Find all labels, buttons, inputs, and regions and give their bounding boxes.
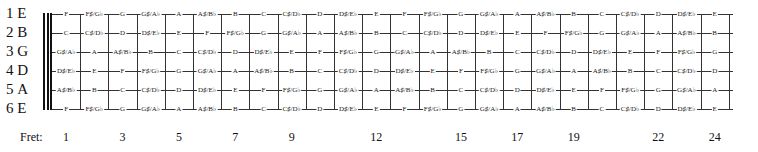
note-cell: F [120, 67, 126, 75]
note-cell: C♯/D♭ [281, 10, 301, 18]
note-cell: B [288, 67, 295, 75]
string-label-6: 6 E [6, 101, 26, 116]
note-cell: C♯/D♭ [620, 10, 640, 18]
note-cell: B [232, 105, 239, 113]
note-cell: C♯/D♭ [676, 67, 696, 75]
note-cell: G♯/A♭ [338, 86, 359, 94]
note-cell: G [316, 86, 323, 94]
note-cell: A [373, 86, 380, 94]
note-cell: B [627, 67, 634, 75]
note-cell: F [317, 48, 323, 56]
note-cell: C♯/D♭ [535, 48, 555, 56]
note-cell: G♯/A♭ [535, 67, 556, 75]
note-cell: D♯/E♭ [338, 10, 358, 18]
note-cell: E [627, 48, 633, 56]
note-cell: G♯/A♭ [140, 10, 161, 18]
note-cell: F♯/G♭ [620, 86, 640, 94]
fret-line [503, 14, 504, 109]
note-cell: D [655, 105, 662, 113]
note-cell: A [232, 67, 239, 75]
note-cell: A [175, 10, 182, 18]
note-cell: E [373, 105, 379, 113]
note-cell: D♯/E♭ [338, 105, 358, 113]
note-cell: D♯/E♭ [253, 48, 273, 56]
note-cell: F♯/G♭ [423, 105, 443, 113]
note-cell: F [63, 10, 69, 18]
fret-number-9: 9 [289, 130, 295, 145]
note-cell: E [176, 29, 182, 37]
note-cell: G [457, 10, 464, 18]
note-cell: B [91, 86, 98, 94]
fret-number-19: 19 [568, 130, 580, 145]
note-cell: E [430, 67, 436, 75]
fret-line [108, 14, 109, 109]
note-cell: F [543, 29, 549, 37]
note-cell: A [711, 86, 718, 94]
fret-line [701, 14, 702, 109]
note-cell: A [91, 48, 98, 56]
note-cell: A [316, 29, 323, 37]
note-cell: F♯/G♭ [225, 29, 245, 37]
note-cell: F♯/G♭ [84, 10, 104, 18]
note-cell: A [655, 29, 662, 37]
note-cell: C [317, 67, 324, 75]
note-cell: D♯/E♭ [141, 29, 161, 37]
fret-line [588, 14, 589, 109]
note-cell: E [91, 67, 97, 75]
note-cell: G [119, 105, 126, 113]
note-cell: C♯/D♭ [84, 29, 104, 37]
fret-number-22: 22 [652, 130, 664, 145]
note-cell: G♯/A♭ [479, 105, 500, 113]
note-cell: G♯/A♭ [281, 29, 302, 37]
note-cell: A♯/B♭ [535, 105, 555, 113]
note-cell: A♯/B♭ [112, 48, 132, 56]
fret-line [672, 14, 673, 109]
note-cell: D [570, 48, 577, 56]
note-cell: F [204, 29, 210, 37]
note-cell: G♯/A♭ [394, 48, 415, 56]
fret-number-5: 5 [176, 130, 182, 145]
note-cell: E [232, 86, 238, 94]
note-cell: E [373, 10, 379, 18]
note-cell: B [147, 48, 154, 56]
note-cell: D♯/E♭ [197, 86, 217, 94]
note-cell: F♯/G♭ [282, 86, 302, 94]
note-cell: C [401, 29, 408, 37]
note-cell: E [712, 10, 718, 18]
note-cell: G [119, 10, 126, 18]
fret-line [616, 14, 617, 109]
note-cell: F♯/G♭ [141, 67, 161, 75]
fret-line [475, 14, 476, 109]
note-cell: A♯/B♭ [197, 105, 217, 113]
note-cell: G [711, 48, 718, 56]
fret-line [278, 14, 279, 109]
note-cell: F [402, 105, 408, 113]
note-cell: A♯/B♭ [451, 48, 471, 56]
note-cell: B [373, 29, 380, 37]
note-cell: D [119, 29, 126, 37]
note-cell: B [570, 10, 577, 18]
note-cell: F♯/G♭ [479, 67, 499, 75]
fret-line [644, 14, 645, 109]
note-cell: D [655, 10, 662, 18]
note-cell: F [261, 86, 267, 94]
note-cell: G♯/A♭ [56, 48, 77, 56]
nut-line [43, 13, 45, 110]
fret-number-1: 1 [63, 130, 69, 145]
fret-line [80, 14, 81, 109]
note-cell: A♯/B♭ [197, 10, 217, 18]
note-cell: A♯/B♭ [253, 67, 273, 75]
note-cell: G [457, 105, 464, 113]
fret-number-17: 17 [511, 130, 523, 145]
fret-line [531, 14, 532, 109]
note-cell: A [175, 105, 182, 113]
string-label-3: 3 G [6, 44, 28, 59]
note-cell: F [458, 67, 464, 75]
fret-number-24: 24 [709, 130, 721, 145]
note-cell: A [570, 67, 577, 75]
note-cell: G♯/A♭ [676, 86, 697, 94]
note-cell: C♯/D♭ [197, 48, 217, 56]
fret-line [193, 14, 194, 109]
note-cell: D [373, 67, 380, 75]
note-cell: C♯/D♭ [479, 86, 499, 94]
